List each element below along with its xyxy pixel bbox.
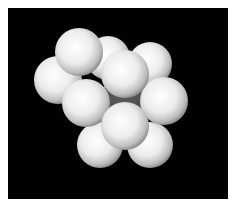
sphere-top-left-front bbox=[55, 28, 103, 76]
sphere-center-bottom bbox=[101, 102, 149, 150]
sphere-center-top bbox=[101, 50, 149, 98]
sphere-cluster bbox=[8, 8, 228, 199]
render-viewport bbox=[8, 8, 228, 199]
